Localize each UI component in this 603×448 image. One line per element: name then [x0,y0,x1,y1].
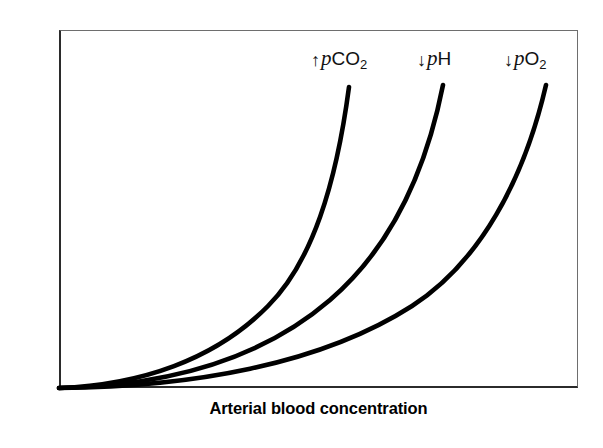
label-pco2-italic-p: p [321,46,332,70]
curve-label-po2: ↓pO2 [504,48,547,71]
label-po2-subscript: 2 [539,57,546,72]
label-pco2-subscript: 2 [360,57,367,72]
plot-frame [59,30,578,388]
label-po2-element: O [525,48,540,69]
curve-label-pco2: ↑pCO2 [311,48,367,71]
arrow-down-icon: ↓ [417,51,426,69]
curve-label-ph: ↓pH [417,48,451,71]
label-pco2-element: CO [332,48,361,69]
figure-canvas: Ventilation rate Arterial blood concentr… [0,0,603,448]
arrow-down-icon: ↓ [504,51,513,69]
label-po2-italic-p: p [514,46,525,70]
y-axis-title-wrap: Ventilation rate [24,39,54,397]
x-axis-title: Arterial blood concentration [59,399,578,418]
label-ph-italic-p: p [427,46,438,70]
label-ph-element: H [438,48,452,69]
arrow-up-icon: ↑ [311,51,320,69]
